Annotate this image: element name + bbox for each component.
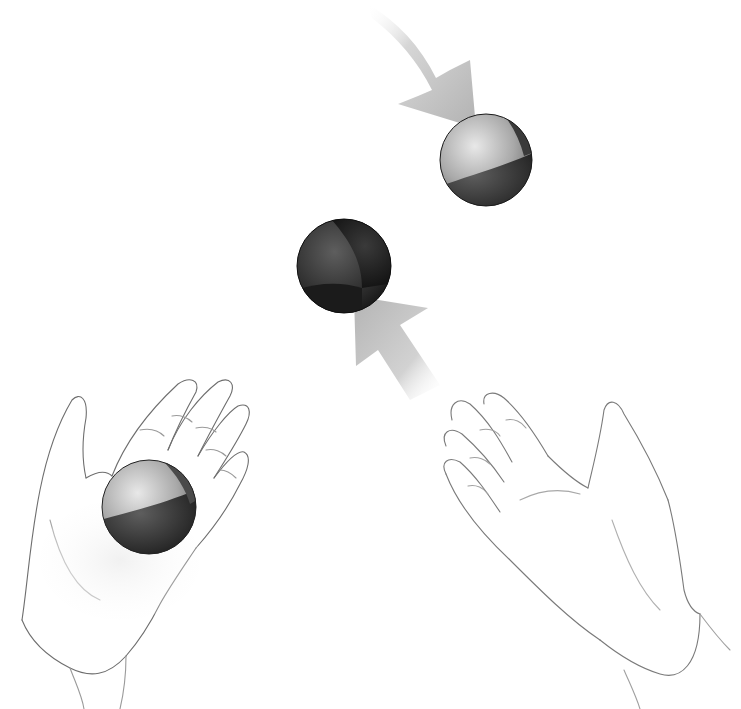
falling-ball	[430, 110, 540, 220]
juggling-illustration	[0, 0, 741, 709]
falling-arrow-icon	[368, 4, 476, 128]
right-hand	[444, 393, 730, 709]
rising-arrow-icon	[354, 296, 440, 400]
